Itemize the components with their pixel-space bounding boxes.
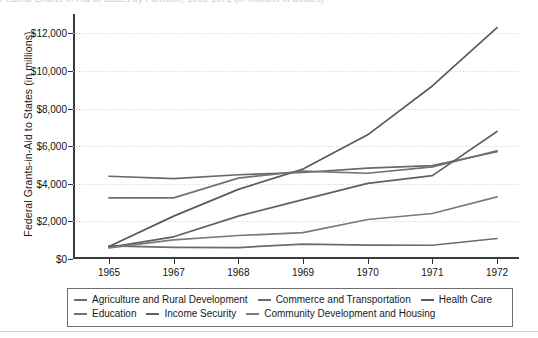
legend-item[interactable]: Community Development and Housing — [246, 307, 435, 321]
x-tick-mark — [497, 259, 498, 264]
legend-label: Community Development and Housing — [264, 307, 435, 321]
chart-legend: Agriculture and Rural DevelopmentCommerc… — [67, 288, 513, 327]
x-tick-mark — [368, 259, 369, 264]
legend-swatch-icon — [258, 299, 271, 302]
legend-item[interactable]: Education — [74, 307, 136, 321]
series-lines — [73, 22, 497, 259]
series-line — [109, 151, 497, 198]
y-tick-label: $10,000 — [31, 65, 73, 76]
y-tick-mark — [68, 259, 73, 260]
plot-area: $0$2,000$4,000$6,000$8,000$10,000$12,000… — [73, 22, 497, 259]
x-tick-mark — [109, 259, 110, 264]
series-line — [109, 131, 497, 247]
legend-swatch-icon — [74, 299, 87, 302]
legend-swatch-icon — [246, 313, 259, 316]
x-tick-mark — [432, 259, 433, 264]
legend-item[interactable]: Commerce and Transportation — [258, 293, 411, 307]
legend-row-2: EducationIncome SecurityCommunity Develo… — [74, 307, 506, 321]
x-tick-mark — [238, 259, 239, 264]
x-tick-label: 1967 — [163, 267, 185, 278]
series-line — [109, 28, 497, 247]
y-tick-label: $12,000 — [31, 28, 73, 39]
x-tick-label: 1965 — [98, 267, 120, 278]
cropped-title-text: Federal Grants-in-Aid to States by Funct… — [0, 0, 538, 9]
x-tick-label: 1969 — [292, 267, 314, 278]
legend-row-1: Agriculture and Rural DevelopmentCommerc… — [74, 293, 506, 307]
x-tick-label: 1971 — [421, 267, 443, 278]
x-tick-mark — [303, 259, 304, 264]
series-line — [109, 197, 497, 248]
legend-swatch-icon — [421, 299, 434, 302]
x-tick-label: 1968 — [227, 267, 249, 278]
y-axis-title: Federal Grants-in-Aid to States (in mill… — [22, 14, 34, 254]
legend-label: Agriculture and Rural Development — [92, 293, 248, 307]
x-tick-label: 1972 — [486, 267, 508, 278]
legend-label: Education — [92, 307, 136, 321]
legend-item[interactable]: Health Care — [421, 293, 492, 307]
bottom-rule — [0, 331, 538, 332]
legend-swatch-icon — [74, 313, 87, 316]
legend-label: Commerce and Transportation — [276, 293, 411, 307]
legend-label: Income Security — [164, 307, 236, 321]
chart-container: Federal Grants-in-Aid to States by Funct… — [0, 0, 538, 338]
x-tick-label: 1970 — [357, 267, 379, 278]
legend-item[interactable]: Income Security — [146, 307, 236, 321]
x-tick-mark — [174, 259, 175, 264]
legend-swatch-icon — [146, 313, 159, 316]
legend-label: Health Care — [439, 293, 492, 307]
legend-item[interactable]: Agriculture and Rural Development — [74, 293, 248, 307]
